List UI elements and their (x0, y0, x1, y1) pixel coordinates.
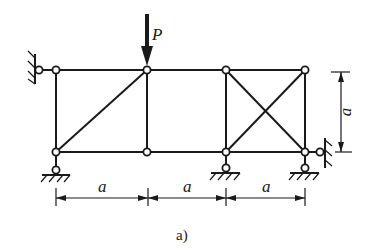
verticals (56, 70, 305, 152)
figure-caption: a) (176, 227, 188, 244)
dim-label-height: a (336, 108, 355, 117)
node-top-2 (222, 66, 229, 73)
node-bot-2 (222, 148, 229, 155)
node-top-0 (52, 66, 59, 73)
support-pin-left (35, 66, 42, 73)
node-top-3 (301, 66, 308, 73)
dim-label-span-2: a (183, 177, 192, 196)
load-label: P (151, 25, 162, 44)
node-bot-0 (52, 148, 59, 155)
node-bot-3 (301, 148, 308, 155)
dim-label-span-3: a (262, 177, 271, 196)
truss-diagram: P a a a a a) (0, 0, 370, 252)
bottom-support-left (41, 152, 70, 182)
truss-nodes (52, 66, 308, 155)
node-bot-1 (143, 148, 150, 155)
left-horizontal-support (28, 51, 43, 84)
right-horizontal-support (316, 138, 332, 168)
support-pin-right (316, 148, 323, 155)
diagonals (56, 70, 305, 152)
dim-label-span-1: a (98, 177, 107, 196)
node-top-1 (143, 66, 150, 73)
